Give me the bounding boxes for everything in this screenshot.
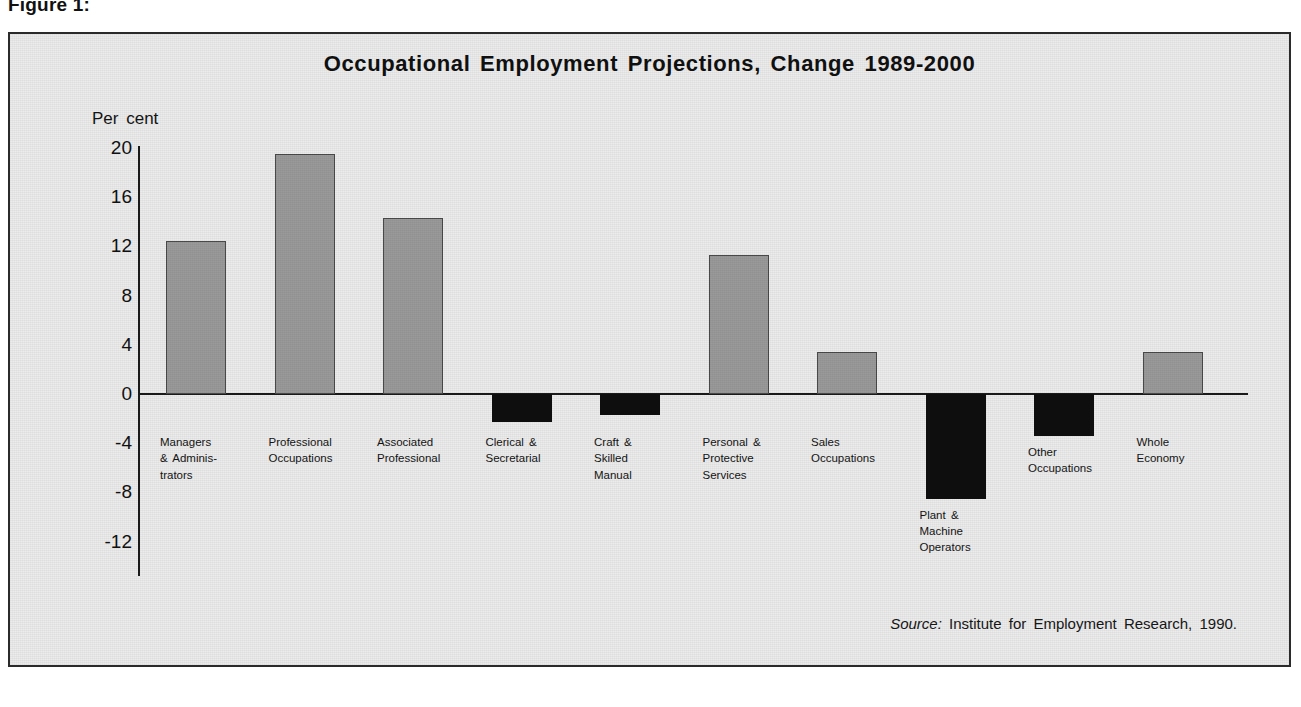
y-tick-label: 4 — [121, 335, 132, 354]
source-note: Source: Institute for Employment Researc… — [890, 615, 1237, 632]
y-axis-label: Per cent — [92, 109, 158, 129]
category-label: Associated Professional — [377, 434, 440, 467]
y-axis-line — [138, 146, 140, 576]
bar — [926, 394, 986, 499]
y-tick-label: 12 — [111, 236, 132, 255]
y-tick-label: 8 — [121, 286, 132, 305]
category-label: Clerical & Secretarial — [486, 434, 541, 467]
bar — [1143, 352, 1203, 394]
bar — [817, 352, 877, 394]
y-tick-label: -12 — [105, 532, 132, 551]
bar — [492, 394, 552, 422]
source-prefix: Source: — [890, 615, 942, 632]
source-text: Institute for Employment Research, 1990. — [949, 615, 1237, 632]
bar — [275, 154, 335, 394]
bar — [166, 241, 226, 394]
category-label: Other Occupations — [1028, 444, 1092, 477]
bar — [709, 255, 769, 394]
plot-area: Per cent 201612840-4-8-12 Managers & Adm… — [10, 34, 1293, 665]
y-tick-label: -4 — [115, 433, 132, 452]
category-label: Professional Occupations — [269, 434, 333, 467]
y-tick-label: -8 — [115, 482, 132, 501]
category-label: Personal & Protective Services — [703, 434, 761, 483]
category-label: Whole Economy — [1137, 434, 1185, 467]
bar — [600, 394, 660, 415]
bar — [383, 218, 443, 394]
y-tick-label: 0 — [121, 384, 132, 403]
category-label: Plant & Machine Operators — [920, 507, 971, 556]
y-tick-label: 16 — [111, 187, 132, 206]
category-label: Sales Occupations — [811, 434, 875, 467]
bar — [1034, 394, 1094, 436]
figure-caption: Figure 1: — [8, 0, 90, 16]
chart-panel: Occupational Employment Projections, Cha… — [8, 32, 1291, 667]
y-tick-label: 20 — [111, 138, 132, 157]
category-label: Craft & Skilled Manual — [594, 434, 632, 483]
category-label: Managers & Adminis- trators — [160, 434, 217, 483]
